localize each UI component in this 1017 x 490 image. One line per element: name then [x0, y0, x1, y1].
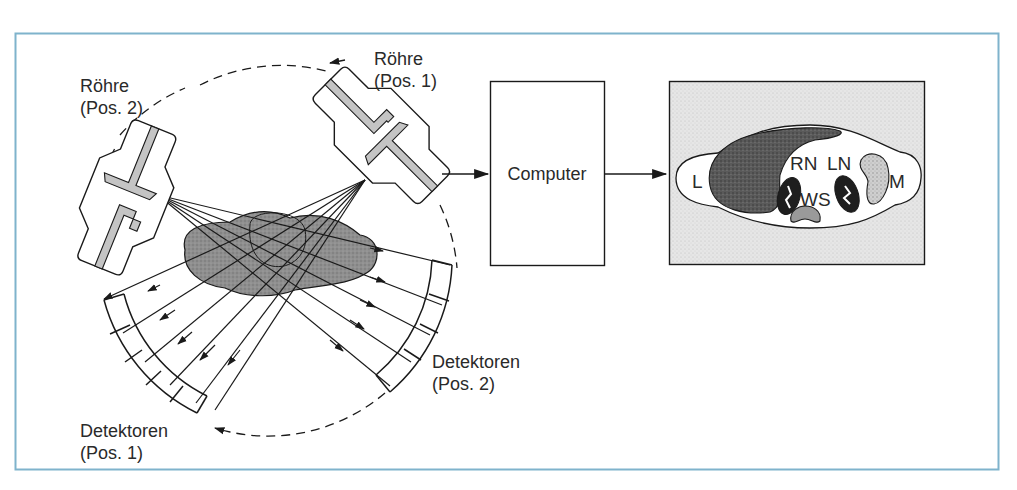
computer-label: Computer [507, 164, 586, 184]
organ-label-spine: WS [800, 189, 831, 210]
label-detectors-pos2-line2: (Pos. 2) [432, 374, 495, 394]
organ-label-right-kidney: RN [790, 153, 817, 174]
label-detectors-pos2-line1: Detektoren [432, 352, 520, 372]
label-tube-pos2-line2: (Pos. 2) [80, 98, 143, 118]
ct-scanner-diagram: Computer L RN LN WS M Röhre (Pos. 2) Röh… [0, 0, 1017, 490]
detector-array-pos2 [376, 260, 452, 392]
label-detectors-pos1-line2: (Pos. 1) [80, 443, 143, 463]
organ-label-liver: L [692, 171, 703, 192]
label-tube-pos1-line1: Röhre [374, 49, 423, 69]
organ-label-spleen: M [889, 171, 905, 192]
label-detectors-pos1-line1: Detektoren [80, 421, 168, 441]
organ-label-left-kidney: LN [827, 153, 851, 174]
xray-tube-pos2 [61, 112, 192, 282]
label-tube-pos1-line2: (Pos. 1) [374, 71, 437, 91]
ct-image: L RN LN WS M [670, 82, 925, 265]
label-tube-pos2-line1: Röhre [80, 76, 129, 96]
